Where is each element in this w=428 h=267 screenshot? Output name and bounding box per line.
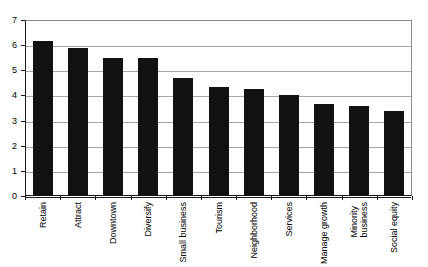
x-axis-label-line: Neighborhood [249, 202, 259, 259]
bar [33, 41, 53, 196]
x-axis-label-line: Downtown [108, 202, 118, 244]
y-tick-label: 5 [12, 66, 17, 75]
x-axis-label: Manage growth [319, 202, 329, 264]
bar [314, 104, 334, 196]
x-axis-label-line: Manage growth [319, 202, 329, 264]
x-axis-label-slot: Minoritybusiness [349, 200, 369, 267]
y-tick-label: 4 [12, 91, 17, 100]
bar [103, 58, 123, 196]
x-axis-label-line: Tourism [214, 202, 224, 234]
y-tick-label: 2 [12, 142, 17, 151]
x-axis-label: Small business [178, 202, 188, 263]
x-axis-label-slot: Diversify [138, 200, 158, 267]
bar [173, 78, 193, 196]
y-tick-label: 0 [12, 192, 17, 201]
x-axis-label: Minoritybusiness [349, 202, 369, 238]
bar [68, 48, 88, 196]
x-axis-label: Downtown [108, 202, 118, 244]
x-tick-mark [412, 196, 413, 200]
y-tick-label: 6 [12, 41, 17, 50]
x-axis-label-line: Services [284, 202, 294, 237]
x-axis-label-line: business [359, 202, 369, 238]
y-tick-label: 3 [12, 117, 17, 126]
x-axis-label-line: Minority [349, 206, 359, 238]
x-axis-label-slot: Downtown [103, 200, 123, 267]
bar [138, 58, 158, 196]
x-axis-label: Social equity [389, 202, 399, 253]
x-axis-label-line: Small business [178, 202, 188, 263]
x-axis-label-slot: Tourism [209, 200, 229, 267]
x-axis-label: Services [284, 202, 294, 237]
x-axis-label-slot: Small business [173, 200, 193, 267]
x-axis-label: Retain [38, 202, 48, 228]
bar [279, 95, 299, 196]
x-axis-label: Neighborhood [249, 202, 259, 259]
x-axis-label-slot: Services [279, 200, 299, 267]
x-axis-labels: RetainAttractDowntownDiversifySmall busi… [25, 200, 412, 267]
x-axis-label-slot: Retain [33, 200, 53, 267]
x-axis-label-line: Retain [38, 202, 48, 228]
bar [349, 106, 369, 197]
y-tick-label: 1 [12, 167, 17, 176]
bar [384, 111, 404, 196]
x-axis-label-line: Attract [73, 202, 83, 228]
x-axis-label-line: Social equity [389, 202, 399, 253]
bar [209, 87, 229, 196]
x-axis-label-slot: Manage growth [314, 200, 334, 267]
x-axis-label: Tourism [214, 202, 224, 234]
y-axis: 76543210 [0, 14, 25, 204]
bar [244, 89, 264, 196]
x-axis-label-slot: Attract [68, 200, 88, 267]
x-axis-label: Diversify [143, 202, 153, 237]
x-axis-label-slot: Social equity [384, 200, 404, 267]
x-axis-label-line: Diversify [143, 202, 153, 237]
x-axis-label-slot: Neighborhood [244, 200, 264, 267]
bars-container [25, 20, 412, 196]
bar-chart: 76543210 RetainAttractDowntownDiversifyS… [0, 0, 428, 267]
y-tick-label: 7 [12, 16, 17, 25]
x-axis-label: Attract [73, 202, 83, 228]
